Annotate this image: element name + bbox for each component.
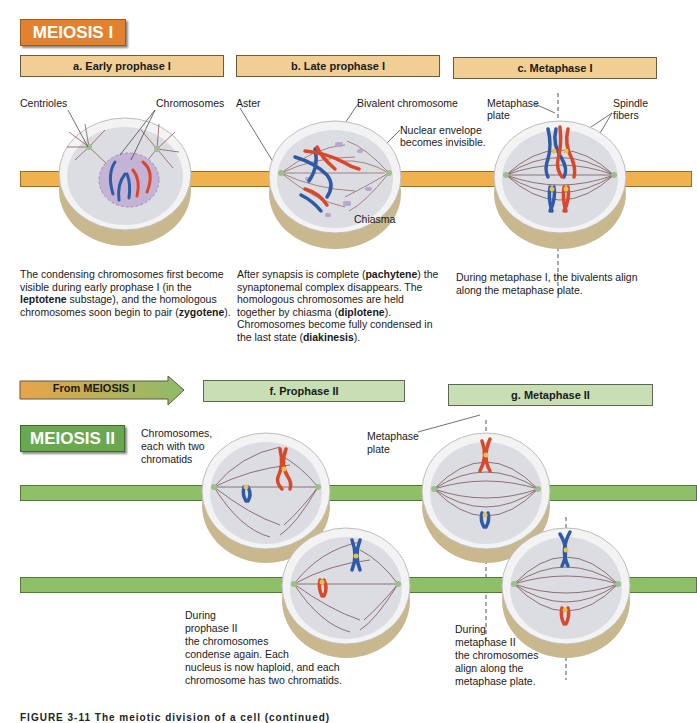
desc-f-line5: nucleus is now haploid, and each <box>185 661 342 674</box>
desc-f-line4: condense again. Each <box>185 648 342 661</box>
desc-c-part1: During metaphase I, the bivalents align … <box>456 271 638 296</box>
late-prophase-1-illustration <box>265 117 405 257</box>
label-aster: Aster <box>236 97 261 109</box>
term-diakinesis: diakinesis <box>303 331 354 343</box>
label-metaphase-plate-2: Metaphase plate <box>367 430 419 456</box>
desc-b-part7: ). <box>354 331 360 343</box>
label-nuclear-envelope: Nuclear envelope becomes invisible. <box>400 124 486 148</box>
description-late-prophase-1: After synapsis is complete (pachytene) t… <box>237 268 442 343</box>
desc-g-line3: the chromosomes <box>455 649 538 662</box>
desc-g-line2: metaphase II <box>455 636 538 649</box>
label-chiasma: Chiasma <box>354 213 395 225</box>
desc-b-part1: After synapsis is complete ( <box>237 268 365 280</box>
description-prophase-2: During prophase II the chromosomes conde… <box>185 609 342 687</box>
label-g-line1: Metaphase <box>367 430 419 443</box>
label-metaphase-plate-1-line1: Metaphase <box>487 97 539 109</box>
desc-f-line1: During <box>185 609 342 622</box>
description-early-prophase-1: The condensing chromosomes first become … <box>20 268 235 318</box>
desc-g-line1: During <box>455 623 538 636</box>
label-nuclear-envelope-line2: becomes invisible. <box>400 136 486 148</box>
desc-a-part5: ). <box>224 306 230 318</box>
label-bivalent-chromosome: Bivalent chromosome <box>357 97 458 109</box>
phase-header-metaphase-2: g. Metaphase II <box>448 384 653 406</box>
label-spindle-fibers-line1: Spindle <box>613 97 648 109</box>
desc-g-line4: align along the <box>455 662 538 675</box>
metaphase-1-illustration <box>490 115 630 255</box>
desc-f-line2: prophase II <box>185 622 342 635</box>
description-metaphase-1: During metaphase I, the bivalents align … <box>456 271 656 296</box>
meiosis-2-track-bar-upper <box>20 485 697 501</box>
label-nuclear-envelope-line1: Nuclear envelope <box>400 124 486 136</box>
label-spindle-fibers-line2: fibers <box>613 109 648 121</box>
label-g-line2: plate <box>367 443 419 456</box>
meiosis-2-badge: MEIOSIS II <box>20 425 125 452</box>
term-pachytene: pachytene <box>365 268 417 280</box>
term-leptotene: leptotene <box>20 293 67 305</box>
figure-caption: FIGURE 3-11 The meiotic division of a ce… <box>20 712 330 723</box>
description-metaphase-2: During metaphase II the chromosomes alig… <box>455 623 538 688</box>
cell-metaphase-1 <box>490 115 630 255</box>
desc-f-line6: chromosome has two chromatids. <box>185 674 342 687</box>
label-metaphase-plate-1-line2: plate <box>487 109 539 121</box>
cell-late-prophase-1 <box>265 117 405 257</box>
term-diplotene: diplotene <box>338 306 385 318</box>
from-meiosis-1-label: From MEIOSIS I <box>20 382 168 394</box>
term-zygotene: zygotene <box>179 306 225 318</box>
label-spindle-fibers: Spindle fibers <box>613 97 648 121</box>
phase-header-prophase-2: f. Prophase II <box>203 380 405 402</box>
desc-f-line3: the chromosomes <box>185 635 342 648</box>
desc-a-part1: The condensing chromosomes first become … <box>20 268 224 293</box>
label-metaphase-plate-1: Metaphase plate <box>487 97 539 121</box>
desc-g-line5: metaphase plate. <box>455 675 538 688</box>
